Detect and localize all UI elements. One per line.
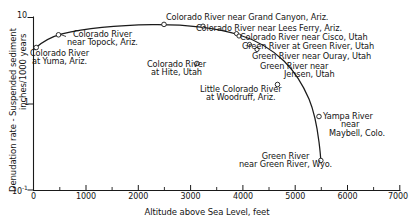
x-tick-label-4000: 4000 bbox=[233, 193, 253, 201]
x-tick-label-6000: 6000 bbox=[338, 193, 358, 201]
annotation-hite: Colorado River at Hite, Utah bbox=[147, 60, 206, 77]
marker-grand-canyon bbox=[162, 22, 167, 27]
x-axis-title: Altitude above Sea Level, feet bbox=[145, 208, 270, 217]
annotation-yampa: Yampa River near Maybell, Colo. bbox=[323, 112, 385, 137]
annotation-jensen: Green River near Jensen, Utah bbox=[260, 62, 335, 79]
annotation-green-river-utah: Green River at Green River, Utah bbox=[242, 42, 374, 50]
y-axis-title-line2: inches/1000 years bbox=[19, 34, 28, 110]
annotation-ouray: Green River near Ouray, Utah bbox=[252, 52, 371, 60]
marker-yampa bbox=[317, 114, 322, 119]
annotation-grand-canyon: Colorado River near Grand Canyon, Ariz. bbox=[166, 13, 328, 21]
x-tick-label-2000: 2000 bbox=[128, 193, 148, 201]
y-axis-title-line1: Denudation rate - Suspended sediment bbox=[9, 28, 18, 192]
annotation-yuma: Colorado River at Yuma, Ariz. bbox=[30, 49, 89, 66]
leader-lines bbox=[61, 35, 66, 37]
x-tick-label-5000: 5000 bbox=[285, 193, 305, 201]
denudation-rate-chart: 10 1 10-1 Denudation rate - Suspended se… bbox=[0, 0, 412, 224]
x-tick-label-7000: 7000 bbox=[388, 193, 408, 201]
marker-topock bbox=[56, 33, 61, 38]
annotation-topock: Colorado River near Topock, Ariz. bbox=[67, 30, 138, 47]
annotation-green-river-wyo: Green River near Green River, Wyo. bbox=[239, 152, 332, 169]
annotation-woodruff: Little Colorado River at Woodruff, Ariz. bbox=[200, 85, 282, 102]
x-tick-label-1000: 1000 bbox=[76, 193, 96, 201]
x-tick-label-3000: 3000 bbox=[181, 193, 201, 201]
y-tick-label-top: 10 bbox=[17, 12, 27, 20]
x-tick-label-0: 0 bbox=[31, 193, 36, 201]
